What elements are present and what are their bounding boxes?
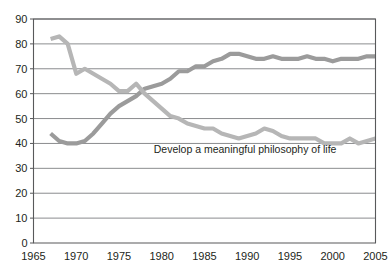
series-annotations: Develop a meaningful philosophy of life — [154, 143, 337, 155]
x-axis-tick-labels: 196519701975198019851990199520002005 — [21, 250, 387, 262]
series-group — [51, 36, 376, 143]
y-axis-tick-labels: 0102030405060708090 — [15, 13, 27, 249]
y-axis-label-70: 70 — [15, 63, 27, 75]
x-axis-label-1980: 1980 — [150, 250, 174, 262]
x-axis-label-1985: 1985 — [192, 250, 216, 262]
axes-group — [34, 19, 376, 243]
chart-container: 0102030405060708090 19651970197519801985… — [0, 0, 391, 273]
x-axis-label-1970: 1970 — [64, 250, 88, 262]
gridlines-group — [34, 19, 376, 218]
line-chart: 0102030405060708090 19651970197519801985… — [0, 0, 391, 273]
y-axis-label-20: 20 — [15, 187, 27, 199]
x-axis-label-1990: 1990 — [235, 250, 259, 262]
y-axis-label-30: 30 — [15, 162, 27, 174]
y-axis-label-50: 50 — [15, 113, 27, 125]
y-axis-label-80: 80 — [15, 38, 27, 50]
plot-frame — [34, 19, 376, 243]
y-axis-label-90: 90 — [15, 13, 27, 25]
y-axis-label-10: 10 — [15, 212, 27, 224]
x-axis-label-1995: 1995 — [278, 250, 302, 262]
x-axis-label-1975: 1975 — [107, 250, 131, 262]
x-axis-label-1965: 1965 — [21, 250, 45, 262]
y-axis-label-40: 40 — [15, 137, 27, 149]
series-annotation-1: Develop a meaningful philosophy of life — [154, 143, 337, 155]
x-axis-label-2000: 2000 — [321, 250, 345, 262]
y-axis-label-60: 60 — [15, 88, 27, 100]
x-axis-label-2005: 2005 — [363, 250, 387, 262]
y-axis-label-0: 0 — [21, 237, 27, 249]
